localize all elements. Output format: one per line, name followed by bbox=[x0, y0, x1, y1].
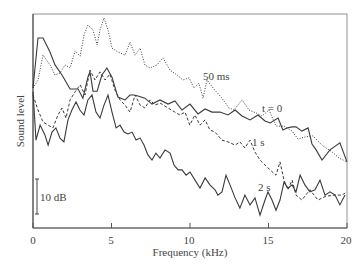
x-tick-label-20: 20 bbox=[341, 234, 353, 246]
curve-50ms bbox=[33, 18, 347, 162]
y-axis-title: Sound level bbox=[14, 95, 26, 147]
scale-bar-label: 10 dB bbox=[40, 191, 67, 203]
x-tick-labels: 0 5 10 15 20 bbox=[30, 234, 352, 246]
x-axis-title: Frequency (kHz) bbox=[153, 246, 228, 259]
x-ticks bbox=[33, 223, 347, 228]
x-tick-label-10: 10 bbox=[184, 234, 196, 246]
spectrum-chart: 0 5 10 15 20 Frequency (kHz) Sound level… bbox=[0, 0, 363, 269]
x-tick-label-0: 0 bbox=[30, 234, 36, 246]
curve-2s bbox=[33, 92, 345, 215]
plot-frame bbox=[33, 14, 347, 228]
scale-bar: 10 dB bbox=[35, 179, 67, 214]
x-tick-label-15: 15 bbox=[263, 234, 275, 246]
curve-1s bbox=[33, 70, 347, 200]
x-tick-label-5: 5 bbox=[108, 234, 114, 246]
curves bbox=[33, 18, 347, 215]
label-2s: 2 s bbox=[258, 181, 271, 193]
label-t0: t = 0 bbox=[262, 102, 283, 114]
label-1s: 1 s bbox=[252, 136, 265, 148]
label-50ms: 50 ms bbox=[203, 70, 230, 82]
